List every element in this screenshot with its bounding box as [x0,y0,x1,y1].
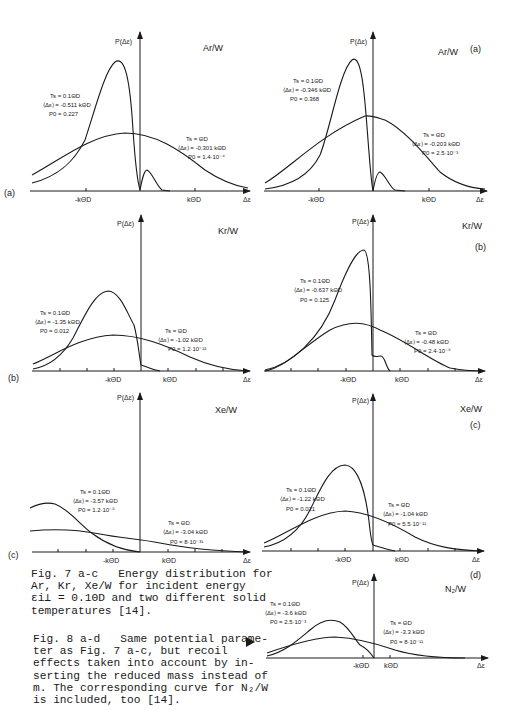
panel-tag: (d) [470,570,481,580]
system-label: Xe/W [215,405,238,415]
panel-fig8d: P(Δε) N₂/W (d) -kΘD kΘD Δε Ts = 0.1ΘD ⟨Δ… [265,570,488,669]
system-label: Ar/W [438,47,459,57]
curve-cold [267,620,374,658]
hot-mean: ⟨Δε⟩ = -3.04 kΘD [163,529,209,535]
y-axis-label: P(Δε) [117,220,134,228]
panel-fig7b: P(Δε) Kr/W (b) -kΘD kΘD Δε Ts = 0.1ΘD ⟨Δ… [8,215,251,383]
hot-ts: Ts = ΘD [390,620,413,626]
panel-fig7c: P(Δε) Xe/W (c) -kΘD kΘD Δε Ts = 0.1ΘD ⟨Δ… [8,393,251,564]
curve-hot [264,511,480,551]
x-axis-label: Δε [472,556,480,563]
curve-cold [264,465,395,551]
x-axis-label: Δε [477,662,485,669]
cold-p0: P0 = 0.125 [300,297,330,303]
system-label: Ar/W [203,43,224,53]
cold-ts: Ts = 0.1ΘD [80,489,111,495]
y-axis-label: P(Δε) [350,38,367,46]
tick-plus: kΘD [395,376,409,383]
cold-mean: ⟨Δε⟩ = -3.57 kΘD [73,498,119,504]
hot-ts: Ts = ΘD [168,520,191,526]
y-axis-label: P(Δε) [352,218,369,226]
panel-tag: (b) [8,373,19,383]
tick-minus: -kΘD [103,557,119,564]
hot-p0: P0 = 1.4·10⁻⁴ [188,154,225,160]
hot-p0: P0 = 8·10⁻³¹ [170,539,203,545]
y-axis-label: P(Δε) [115,38,132,46]
system-label: Xe/W [460,404,483,414]
hot-mean: ⟨Δε⟩ = -1.02 kΘD [158,337,204,343]
curve-cold [265,59,405,191]
panel-tag: (c) [470,420,481,430]
cold-ts: Ts = 0.1ΘD [270,601,301,607]
x-axis-label: Δε [475,376,483,383]
hot-mean: ⟨Δε⟩ = -0.301 kΘD [178,145,227,151]
cold-ts: Ts = 0.1ΘD [300,278,331,284]
tick-plus: kΘD [162,557,176,564]
cold-p0: P0 = 0.368 [290,96,320,102]
cold-p0: P0 = 0.012 [40,328,70,334]
hot-ts: Ts = ΘD [186,136,209,142]
tick-plus: kΘD [384,662,398,669]
tick-plus: kΘD [395,556,409,563]
cold-p0: P0 = 0.021 [286,506,316,512]
hot-ts: Ts = ΘD [388,502,411,508]
hot-p0: P0 = 5.5·10⁻¹¹ [388,521,426,527]
cold-ts: Ts = 0.1ΘD [293,78,324,84]
tick-plus: kΘD [422,196,436,203]
y-axis-label: P(Δε) [117,394,134,402]
x-axis-label: Δε [243,376,251,383]
panel-tag: (a) [4,188,15,198]
tick-plus: kΘD [163,376,177,383]
hot-mean: ⟨Δε⟩ = -0.203 kΘD [412,141,461,147]
tick-minus: -kΘD [335,556,351,563]
hot-mean: ⟨Δε⟩ = -1.04 kΘD [383,511,429,517]
curve-cold [265,250,390,371]
hot-mean: ⟨Δε⟩ = -0.48 kΘD [404,339,450,345]
hot-ts: Ts = ΘD [415,330,438,336]
tick-minus: -kΘD [353,662,369,669]
tick-plus: kΘD [187,196,201,203]
cold-mean: ⟨Δε⟩ = -1.22 kΘD [280,496,326,502]
hot-mean: ⟨Δε⟩ = -3.3 kΘD [383,629,425,635]
y-axis-label: P(Δε) [352,579,369,587]
cold-mean: ⟨Δε⟩ = -0.511 kΘD [43,102,91,108]
x-axis-label: Δε [243,557,251,564]
hot-p0: P0 = 2.5·10⁻³ [422,150,458,156]
panel-fig8a: P(Δε) Ar/W (a) -kΘD kΘD Δε Ts = 0.1ΘD ⟨Δ… [264,32,487,203]
x-axis-label: Δε [243,196,251,203]
hot-ts: Ts = ΘD [423,132,446,138]
cold-ts: Ts = 0.1ΘD [286,487,317,493]
panel-tag: (b) [475,242,486,252]
panel-fig7a: P(Δε) Ar/W (a) -kΘD kΘD Δε Ts = 0.1ΘD ⟨Δ… [4,32,251,203]
tick-minus: -kΘD [340,376,356,383]
curve-cold [32,61,170,191]
cold-p0: P0 = 2.5·10⁻³ [270,619,306,625]
cold-mean: ⟨Δε⟩ = -1.35 kΘD [35,319,81,325]
system-label: Kr/W [218,226,239,236]
cold-ts: Ts = 0.1ΘD [50,93,81,99]
hot-ts: Ts = ΘD [165,328,188,334]
tick-minus: -kΘD [75,196,91,203]
cold-ts: Ts = 0.1ΘD [40,310,71,316]
caption-fig8: Fig. 8 a-d Same potential parame- ter as… [33,633,268,706]
panel-tag: (a) [470,44,481,54]
pointer-arrow-icon [246,637,255,647]
curve-hot [267,637,465,658]
panel-tag: (c) [8,550,19,560]
tick-minus: -kΘD [308,196,324,203]
hot-p0: P0 = 2.4·10⁻⁶ [414,348,451,354]
panel-fig8c: P(Δε) Xe/W (c) -kΘD kΘD Δε Ts = 0.1ΘD ⟨Δ… [262,394,484,563]
y-axis-label: P(Δε) [352,397,369,405]
panel-fig8b: P(Δε) Kr/W (b) -kΘD kΘD Δε Ts = 0.1ΘD ⟨Δ… [264,215,486,383]
hot-p0: P0 = 1.2·10⁻¹² [168,346,206,352]
system-label: Kr/W [462,221,483,231]
tick-minus: -kΘD [105,376,121,383]
cold-mean: ⟨Δε⟩ = -0.637 kΘD [294,287,343,293]
hot-p0: P0 = 8·10⁻¹¹ [390,639,423,645]
caption-fig7: Fig. 7 a-c Energy distribution for Ar, K… [31,568,273,617]
cold-p0: P0 = 1.2·10⁻⁵ [78,507,115,513]
x-axis-label: Δε [476,196,484,203]
cold-p0: P0 = 0.227 [49,111,79,117]
cold-mean: ⟨Δε⟩ = -0.346 kΘD [283,87,332,93]
system-label: N₂/W [445,584,466,594]
